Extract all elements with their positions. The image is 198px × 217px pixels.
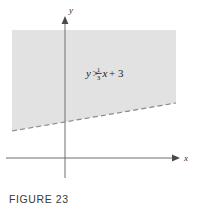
y-axis-label: y [68,5,73,15]
x-axis-label: x [183,153,188,163]
inequality-lhs: y [85,67,91,79]
plot-area: y x y> 1 3 x + 3 [0,0,198,180]
figure-caption: FIGURE 23 [9,193,69,205]
figure-container: y x y> 1 3 x + 3 FIGURE 23 [0,0,198,217]
fraction-numerator: 1 [97,66,101,74]
fraction-denominator: 3 [97,74,101,82]
x-axis [6,155,180,162]
inequality-variable: x [102,67,108,79]
inequality-graph: y x y> 1 3 x + 3 [0,0,198,180]
inequality-constant: 3 [118,67,124,79]
inequality-plus-sign: + [109,67,115,79]
shaded-solution-region [12,30,176,131]
